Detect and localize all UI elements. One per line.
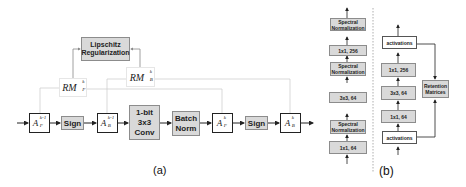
caption-b: (b) [379,164,394,178]
a-f-base: A [217,118,223,128]
conv-1x1-256-right: 1x1, 256 [381,63,416,77]
conv-1x1-256-right-label: 1x1, 256 [389,67,408,73]
a-b-base: A [285,118,291,128]
rm-b-sub: B [150,77,153,82]
caption-a: (a) [153,164,166,176]
rm-f-base: RM [62,82,76,93]
a-b-prev-sub: B [108,123,111,128]
activation-a-f: AkF [212,113,233,133]
conv-3x3-64-left: 3x3, 64 [329,92,367,103]
conv-line3: Conv [135,128,155,138]
batch-norm-line1: Batch [175,114,197,124]
a-b-prev-sup: k-1 [108,115,114,120]
regularizer-line2: Regularization [81,49,129,57]
activations-bottom: activations [382,131,417,144]
spectral-top-line2: Normalization [331,25,364,31]
conv-1x1-64-left: 1x1, 64 [329,141,367,154]
sign-block-2: Sign [245,116,268,130]
a-f-prev-base: A [33,118,39,128]
conv-3x3-64-left-label: 3x3, 64 [340,95,357,101]
conv-1x1-64-right: 1x1, 64 [381,110,416,123]
activation-a-b: AkB [280,113,301,133]
conv-line2: 3x3 [138,118,151,128]
binary-conv-block: 1-bit 3x3 Conv [129,105,160,140]
activation-a-f-prev: Ak-1F [29,113,50,133]
spectral-norm-top: Spectral Normalization [330,18,366,31]
retention-line2: Matrices [425,89,445,95]
lipschitz-regularization-block: Lipschitz Regularization [81,37,130,61]
a-f-prev-sub: F [40,123,43,128]
a-b-sup: k [292,115,294,120]
retention-matrices-block: Retention Matrices [422,80,449,98]
a-f-prev-sup: k-1 [40,115,46,120]
conv-1x1-256-left-label: 1x1, 256 [338,48,357,54]
conv-3x3-64-right-label: 3x3, 64 [390,90,407,96]
rm-b-base: RM [130,72,144,83]
regularizer-line1: Lipschitz [90,41,120,49]
conv-line1: 1-bit [136,108,153,118]
batch-norm-block: Batch Norm [172,111,200,136]
conv-1x1-256-left: 1x1, 256 [329,45,367,56]
activations-bottom-label: activations [386,135,412,141]
batch-norm-line2: Norm [176,124,197,134]
sign-block-1: Sign [61,116,84,130]
spectral-norm-middle: Spectral Normalization [330,62,366,76]
sign-2-label: Sign [248,119,265,128]
conv-3x3-64-right: 3x3, 64 [381,86,416,100]
a-f-sup: k [224,115,226,120]
a-b-sub: B [292,123,295,128]
spectral-norm-bottom: Spectral Normalization [330,120,366,134]
activations-top-label: activations [386,40,412,46]
spectral-middle-line2: Normalization [331,69,364,75]
rm-f-sub: F [82,87,85,92]
spectral-bottom-line2: Normalization [331,127,364,133]
sign-1-label: Sign [64,119,81,128]
a-b-prev-base: A [101,118,107,128]
activations-top: activations [382,36,417,49]
rm-f-block: RMkF [59,78,87,97]
a-f-sub: F [224,123,227,128]
rm-b-block: RMkB [126,67,155,87]
activation-a-b-prev: Ak-1B [97,113,118,133]
conv-1x1-64-left-label: 1x1, 64 [340,145,357,151]
conv-1x1-64-right-label: 1x1, 64 [390,114,407,120]
rm-f-sup: k [82,79,84,84]
rm-b-sup: k [150,69,152,74]
